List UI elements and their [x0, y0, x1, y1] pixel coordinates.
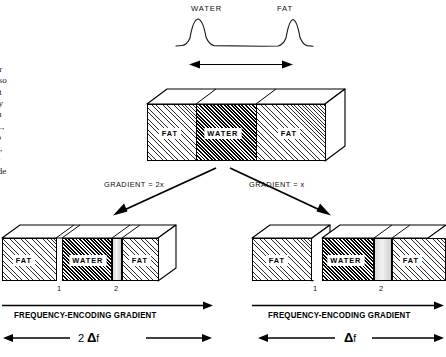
figure-canvas: and water uencies, so tive to fat freque… — [0, 0, 446, 357]
right-delta-symbol: Δ — [344, 330, 353, 345]
right-result-gap-1-number: 1 — [313, 284, 317, 293]
left-result-gap-2 — [112, 238, 122, 281]
left-result-label-water: WATER — [70, 255, 107, 266]
left-delta-suffix: f — [96, 333, 99, 344]
spectrum-curve — [176, 19, 313, 46]
right-result-gap-2-number: 2 — [379, 284, 383, 293]
branch-label-left: GRADIENT = 2x — [104, 180, 164, 189]
right-frequency-axis-label: FREQUENCY-ENCODING GRADIENT — [268, 310, 410, 320]
top-block-label-water: WATER — [205, 128, 242, 139]
right-result-gap-2 — [374, 238, 392, 281]
left-result-label-fat-right: FAT — [129, 255, 151, 266]
left-delta-f-label: 2 Δf — [78, 330, 99, 345]
left-result-gap-2-number: 2 — [114, 284, 118, 293]
right-frequency-axis-arrow — [252, 302, 444, 310]
right-delta-suffix: f — [353, 333, 356, 344]
right-result-label-fat-right: FAT — [400, 255, 422, 266]
left-frequency-axis-arrow — [2, 302, 213, 310]
left-frequency-axis-label: FREQUENCY-ENCODING GRADIENT — [14, 310, 156, 320]
branch-label-right: GRADIENT = x — [249, 180, 305, 189]
right-result-label-water: WATER — [328, 255, 365, 266]
ppm-arrow — [189, 60, 293, 68]
left-delta-symbol: Δ — [87, 330, 96, 345]
right-delta-f-label: Δf — [344, 330, 356, 345]
left-delta-f-arrow — [3, 334, 212, 342]
left-delta-prefix: 2 — [78, 332, 84, 344]
left-result-label-fat-left: FAT — [13, 255, 35, 266]
right-result-gap-1 — [312, 239, 322, 280]
left-result-gap-1-number: 1 — [57, 284, 61, 293]
spectrum-trace-svg — [0, 0, 446, 357]
top-block-label-fat-left: FAT — [159, 128, 181, 139]
branch-arrow-left — [113, 168, 216, 216]
branch-arrow-right — [230, 168, 331, 216]
top-block-label-fat-right: FAT — [278, 128, 300, 139]
right-result-label-fat-left: FAT — [266, 255, 288, 266]
